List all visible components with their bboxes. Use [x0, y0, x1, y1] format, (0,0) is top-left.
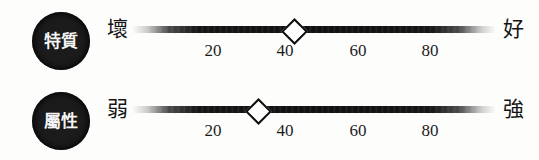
scale-bar[interactable]	[132, 26, 496, 33]
tick-label: 20	[205, 42, 222, 59]
badge-label: 屬性	[44, 113, 78, 130]
right-pole-label: 好	[503, 19, 524, 40]
rating-scale-diagram: 特質 壞 20 40 60 80 好 屬性 弱 20 40 60 80 強	[0, 0, 539, 160]
tick-label: 80	[422, 122, 439, 139]
right-pole-label: 強	[503, 99, 524, 120]
scale-row: 屬性 弱 20 40 60 80 強	[0, 80, 539, 160]
diamond-icon	[245, 98, 272, 125]
row-badge-trait: 特質	[32, 12, 90, 70]
left-pole-label: 弱	[107, 99, 128, 120]
tick-label: 80	[422, 42, 439, 59]
row-badge-attribute: 屬性	[32, 92, 90, 150]
scale-row: 特質 壞 20 40 60 80 好	[0, 0, 539, 80]
scale-handle-diamond-icon[interactable]	[281, 18, 304, 41]
badge-label: 特質	[44, 33, 78, 50]
bar-texture	[132, 106, 496, 113]
tick-label: 40	[277, 122, 294, 139]
scale-handle-diamond-icon[interactable]	[245, 98, 268, 121]
tick-label: 60	[350, 122, 367, 139]
left-pole-label: 壞	[107, 19, 128, 40]
scale-bar[interactable]	[132, 106, 496, 113]
tick-label: 40	[277, 42, 294, 59]
tick-label: 60	[350, 42, 367, 59]
tick-label: 20	[205, 122, 222, 139]
bar-texture	[132, 26, 496, 33]
